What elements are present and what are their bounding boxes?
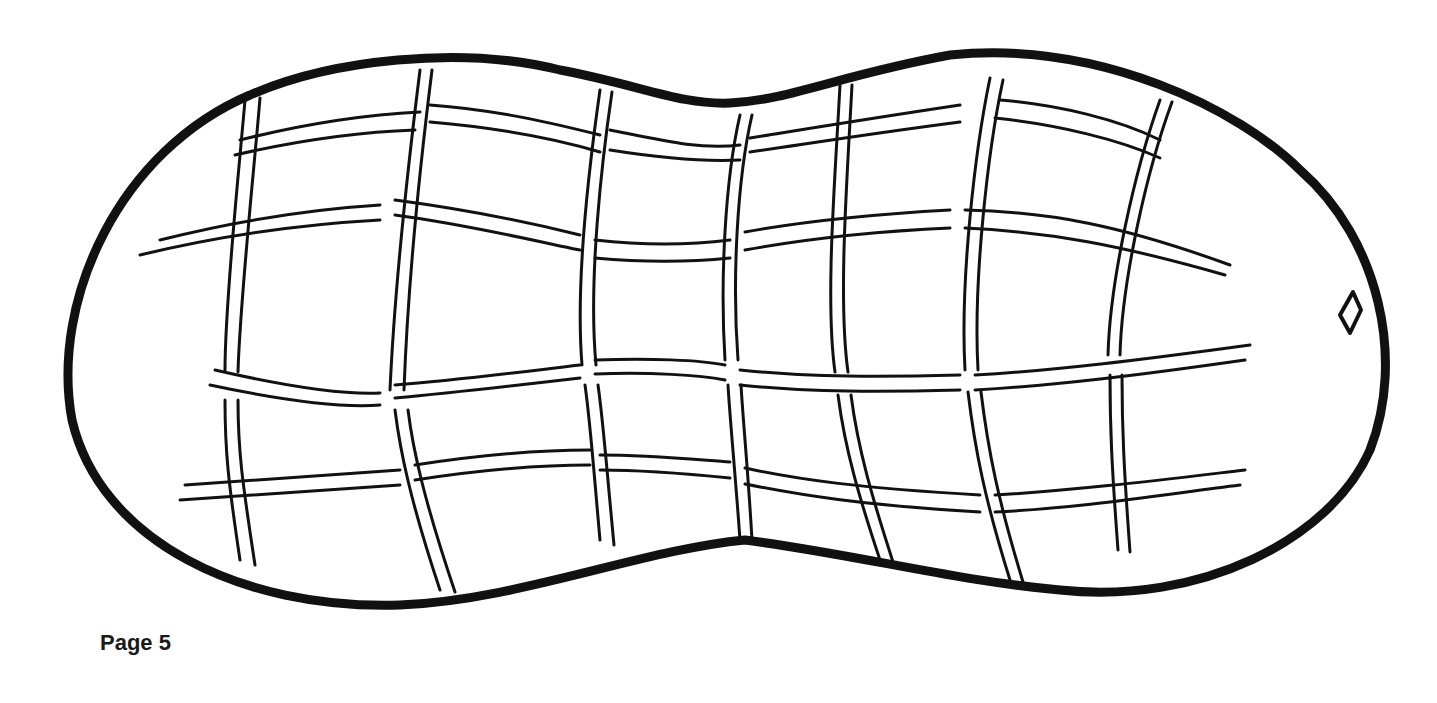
grid-texture bbox=[140, 100, 1250, 512]
peanut-illustration bbox=[0, 0, 1437, 703]
grid-vertical-lines bbox=[225, 70, 1172, 592]
page-number-label: Page 5 bbox=[100, 630, 171, 656]
peanut-outline bbox=[68, 53, 1385, 605]
shell-tip-diamond bbox=[1340, 292, 1361, 333]
